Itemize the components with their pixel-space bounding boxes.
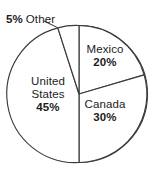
canada-name: Canada — [76, 98, 134, 111]
united-states-name-line1: United — [18, 75, 78, 88]
mexico-name: Mexico — [76, 43, 134, 56]
other-percent: 5% — [6, 13, 23, 25]
slice-label-canada: Canada 30% — [76, 98, 134, 124]
slice-label-united-states: United States 45% — [18, 75, 78, 115]
pie-chart: 5%Other Mexico 20% Canada 30% United Sta… — [0, 0, 162, 173]
united-states-name-line2: States — [18, 88, 78, 101]
mexico-percent: 20% — [76, 56, 134, 69]
slice-label-other: 5%Other — [6, 9, 55, 27]
other-name: Other — [26, 13, 55, 25]
canada-percent: 30% — [76, 111, 134, 124]
united-states-percent: 45% — [18, 101, 78, 114]
slice-label-mexico: Mexico 20% — [76, 43, 134, 69]
